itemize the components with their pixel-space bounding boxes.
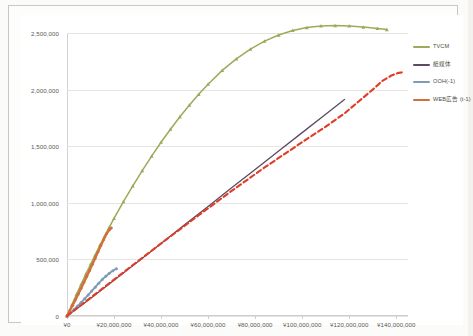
y-tick-label: 1,000,000: [31, 199, 59, 206]
plot-area: 0500,0001,000,0001,500,0002,000,0002,500…: [67, 33, 408, 316]
series-marker: [102, 238, 105, 241]
x-tick-label: ¥0: [64, 321, 71, 328]
series-marker: [87, 293, 90, 296]
legend-color-swatch: [413, 46, 430, 48]
x-tick-label: ¥20,000,000: [97, 321, 132, 328]
legend-label: WEB広告 (t-1): [433, 96, 471, 103]
x-tick-mark: [114, 316, 115, 319]
series-line: [67, 72, 404, 316]
series-marker: [115, 267, 118, 270]
series-lines: [67, 33, 408, 316]
series-marker: [104, 275, 107, 278]
legend-color-swatch: [413, 99, 430, 101]
series-marker: [90, 290, 93, 293]
legend-label: OOH(-1): [433, 78, 455, 85]
legend-color-swatch: [413, 64, 430, 66]
series-marker: [71, 304, 74, 307]
series-marker: [94, 286, 97, 289]
series-marker: [110, 226, 113, 229]
series-marker: [94, 257, 97, 260]
gridline: [67, 316, 408, 317]
series-marker: [97, 282, 100, 285]
y-tick-label: 0: [56, 313, 60, 320]
x-tick-label: ¥140,000,000: [377, 321, 415, 328]
legend-label: 紙媒体: [433, 61, 451, 68]
x-tick-mark: [396, 316, 397, 319]
y-tick-label: 500,000: [36, 256, 59, 263]
x-tick-mark: [302, 316, 303, 319]
legend-item[interactable]: TVCM: [413, 43, 473, 51]
x-tick-label: ¥80,000,000: [238, 321, 273, 328]
chart-container: 0500,0001,000,0001,500,0002,000,0002,500…: [21, 15, 463, 325]
legend-item[interactable]: WEB広告 (t-1): [413, 96, 473, 104]
x-tick-mark: [161, 316, 162, 319]
y-tick-label: 2,500,000: [31, 30, 59, 37]
x-tick-label: ¥120,000,000: [330, 321, 368, 328]
series-marker: [82, 281, 85, 284]
series-marker: [105, 232, 108, 235]
page-border: 0500,0001,000,0001,500,0002,000,0002,500…: [8, 5, 458, 323]
x-tick-label: ¥60,000,000: [191, 321, 226, 328]
legend-item[interactable]: OOH(-1): [413, 78, 473, 86]
x-tick-mark: [349, 316, 350, 319]
series-line: [67, 228, 111, 316]
series-marker: [74, 298, 77, 301]
series-marker: [83, 297, 86, 300]
x-tick-mark: [208, 316, 209, 319]
legend-label: TVCM: [433, 43, 449, 50]
x-tick-label: ¥40,000,000: [144, 321, 179, 328]
series-marker: [68, 309, 71, 312]
series-marker: [77, 292, 80, 295]
series-marker: [80, 287, 83, 290]
series-marker: [85, 275, 88, 278]
y-tick-label: 1,500,000: [31, 143, 59, 150]
series-marker: [101, 278, 104, 281]
legend-item[interactable]: 紙媒体: [413, 61, 473, 69]
y-tick-label: 2,000,000: [31, 86, 59, 93]
series-marker: [97, 250, 100, 253]
series-marker: [91, 263, 94, 266]
x-tick-mark: [255, 316, 256, 319]
chart-legend: TVCM紙媒体OOH(-1)WEB広告 (t-1): [413, 43, 473, 113]
series-marker: [99, 244, 102, 247]
legend-color-swatch: [413, 81, 430, 83]
series-line: [67, 26, 387, 316]
series-marker: [111, 269, 114, 272]
series-marker: [108, 272, 111, 275]
x-tick-label: ¥100,000,000: [283, 321, 321, 328]
series-marker: [88, 269, 91, 272]
